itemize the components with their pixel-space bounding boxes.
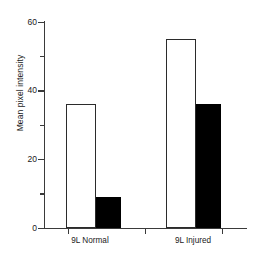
bar-group1-open	[66, 104, 96, 228]
bar-group2-filled	[196, 104, 221, 228]
x-tick-middle	[145, 229, 146, 234]
plot-area	[44, 22, 246, 228]
x-category-label-1: 9L Normal	[60, 236, 120, 245]
y-tick-label-20: 20	[0, 155, 37, 164]
y-tick-label-60: 60	[0, 18, 37, 27]
x-tick-right	[222, 229, 223, 234]
y-tick-label-40: 40	[0, 86, 37, 95]
bar-group2-open	[166, 39, 196, 228]
x-tick-left	[68, 229, 69, 234]
x-category-label-2: 9L Injured	[163, 236, 223, 245]
bar-chart: Mean pixel intensity 60 40 20 0 9L Norma…	[0, 0, 259, 255]
y-tick-label-0: 0	[0, 224, 37, 233]
bar-group1-filled	[96, 197, 121, 228]
